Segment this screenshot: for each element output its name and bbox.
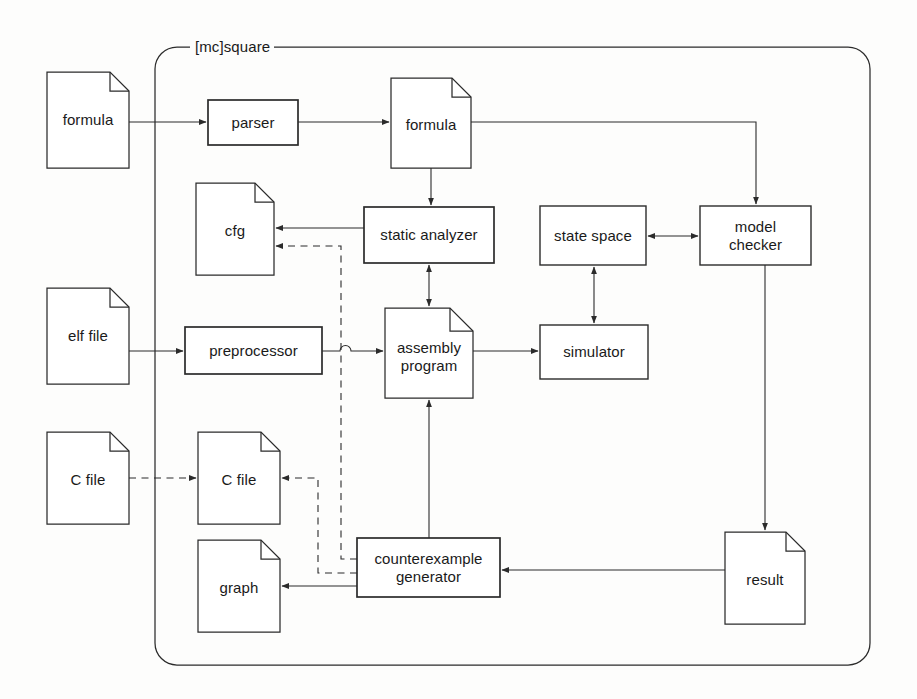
node-state-space [540,206,646,265]
diagram-canvas: [mc]square formula parser formula cfg st… [0,0,917,699]
node-formula-internal [391,78,471,168]
edge-preprocessor-to-assembly-program [322,346,383,352]
node-model-checker [700,206,811,265]
node-assembly-program [385,308,473,398]
node-graph [198,540,280,632]
node-counterexample-generator [357,538,500,597]
node-result [725,532,805,624]
node-simulator [540,325,648,379]
diagram-svg [0,0,917,699]
node-static-analyzer [364,207,494,263]
node-c-file-internal [198,432,280,524]
edge-formula-to-model-checker [471,122,756,204]
node-formula-input [47,72,129,168]
node-elf-file [47,288,129,384]
node-parser [208,100,298,145]
node-preprocessor [185,327,322,374]
edge-counterexample-generator-to-c-file [282,478,357,573]
node-cfg [196,183,274,275]
node-c-file-external [47,432,129,524]
edge-counterexample-generator-to-cfg [276,246,357,559]
system-boundary-label: [mc]square [191,38,274,55]
